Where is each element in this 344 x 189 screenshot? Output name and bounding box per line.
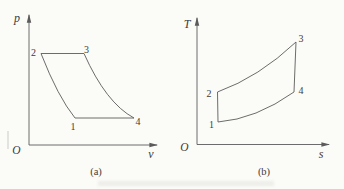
pv-diagram-x-axis-label: v bbox=[148, 147, 154, 161]
pv-diagram-state-point-label: 1 bbox=[71, 121, 76, 132]
pv-diagram-state-point-label: 2 bbox=[31, 47, 36, 58]
ts-diagram-caption: (b) bbox=[258, 166, 271, 178]
pv-diagram-cycle-path bbox=[41, 54, 134, 119]
thermodynamic-cycle-figure: pvO(a)1234 TsO(b)1234 bbox=[0, 0, 344, 189]
pv-diagram-state-point-label: 3 bbox=[84, 44, 89, 55]
ts-diagram-y-axis-label: T bbox=[184, 17, 192, 31]
pv-diagram-y-axis-label: p bbox=[13, 11, 20, 25]
ts-diagram-x-axis-label: s bbox=[319, 147, 324, 161]
figure-canvas: pvO(a)1234 TsO(b)1234 bbox=[0, 0, 344, 189]
ts-diagram: TsO(b)1234 bbox=[180, 17, 329, 179]
ts-diagram-cycle-path bbox=[218, 42, 297, 122]
ts-diagram-state-point-label: 2 bbox=[207, 88, 212, 99]
pv-diagram-state-point-label: 4 bbox=[136, 116, 141, 127]
ts-diagram-origin-label: O bbox=[180, 141, 189, 153]
ts-diagram-state-point-label: 3 bbox=[299, 33, 304, 44]
ts-diagram-axes bbox=[197, 18, 329, 145]
ts-diagram-state-point-label: 4 bbox=[299, 85, 304, 96]
ts-diagram-state-point-label: 1 bbox=[209, 119, 214, 130]
pv-diagram-origin-label: O bbox=[12, 144, 21, 156]
pv-diagram-caption: (a) bbox=[90, 166, 102, 178]
pv-diagram: pvO(a)1234 bbox=[12, 11, 157, 178]
